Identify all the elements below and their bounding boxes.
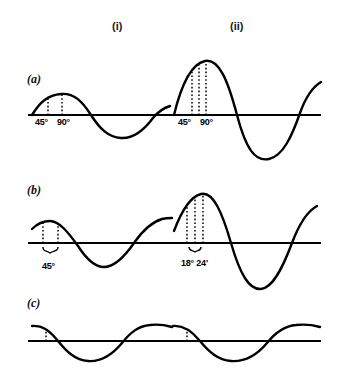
column-header-i: (i) (112, 20, 122, 32)
waveform-curve (174, 61, 321, 160)
span-label-18-24: 18° 24' (181, 258, 208, 268)
waveform-figure: (i) (ii) (a) (b) (c) 45° 90° 45° 90° (0, 0, 342, 383)
angle-label-45: 45° (178, 117, 191, 127)
span-brace (189, 247, 201, 252)
column-header-ii: (ii) (230, 20, 243, 32)
panel-a-ii: 45° 90° (165, 55, 325, 165)
angle-label-90: 90° (57, 117, 70, 127)
panel-a-i: 45° 90° (24, 78, 174, 140)
row-label-b: (b) (27, 183, 41, 198)
span-label-45: 45° (42, 261, 55, 271)
panel-b-i: 45° (24, 205, 174, 280)
angle-label-45: 45° (35, 117, 48, 127)
panel-c-i (24, 316, 174, 376)
span-brace (43, 247, 58, 253)
row-label-c: (c) (27, 296, 40, 311)
angle-label-90: 90° (200, 117, 213, 127)
panel-c-ii (165, 316, 325, 376)
panel-b-ii: 18° 24' (165, 185, 327, 290)
waveform-curve (32, 325, 172, 361)
waveform-curve (173, 325, 320, 361)
